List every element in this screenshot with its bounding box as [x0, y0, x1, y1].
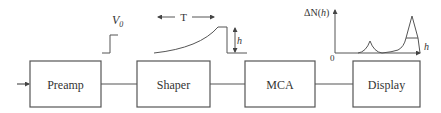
shaped-pulse-waveform: T h	[154, 11, 247, 53]
shaper-label: Shaper	[157, 78, 190, 92]
step-waveform: V0	[102, 13, 123, 53]
spectrum-origin: 0	[330, 53, 335, 63]
mca-label: MCA	[266, 78, 294, 92]
period-label: T	[180, 11, 187, 23]
spectrum-plot: ΔN(h) h 0	[304, 7, 429, 63]
signal-chain-diagram: Preamp Shaper MCA Display V0 T h ΔN(h)	[0, 0, 441, 113]
preamp-label: Preamp	[47, 78, 84, 92]
spectrum-xlabel: h	[424, 41, 429, 52]
mca-block: MCA	[245, 61, 315, 107]
spectrum-ylabel: ΔN(h)	[304, 7, 329, 19]
display-label: Display	[368, 78, 405, 92]
display-block: Display	[353, 61, 420, 107]
shaper-block: Shaper	[137, 61, 210, 107]
preamp-block: Preamp	[30, 61, 101, 107]
step-label: V0	[112, 13, 123, 29]
height-label: h	[237, 35, 242, 46]
